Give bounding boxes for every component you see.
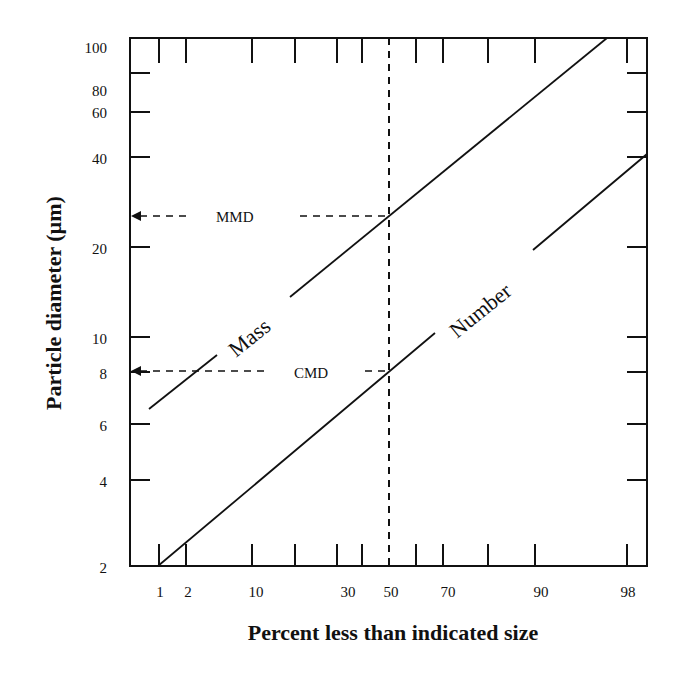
svg-text:30: 30 [341,584,356,600]
x-axis-title: Percent less than indicated size [248,620,539,645]
cmd-label: CMD [294,365,328,381]
svg-text:2: 2 [184,584,192,600]
cmd-leader [131,366,389,376]
mmd-label: MMD [216,209,254,225]
svg-text:90: 90 [534,584,549,600]
y-axis-title: Particle diameter (µm) [41,196,66,410]
svg-text:8: 8 [100,366,108,382]
svg-text:1: 1 [156,584,164,600]
x-ticks [159,38,627,566]
svg-text:40: 40 [92,151,107,167]
svg-text:10: 10 [92,331,107,347]
mmd-arrow-icon [131,211,141,221]
x-tick-labels: 1 2 10 30 50 70 90 98 [156,584,635,600]
svg-text:4: 4 [100,474,108,490]
svg-text:80: 80 [92,83,107,99]
particle-size-chart: MMD CMD Mass Number 100 80 60 40 20 10 8… [0,0,682,673]
svg-text:70: 70 [441,584,456,600]
y-tick-labels: 100 80 60 40 20 10 8 6 4 2 [85,40,108,576]
number-curve-label: Number [444,278,516,343]
svg-text:100: 100 [85,40,108,56]
svg-text:60: 60 [92,105,107,121]
svg-text:10: 10 [249,584,264,600]
cmd-arrow-icon [131,366,141,376]
svg-text:2: 2 [100,560,108,576]
mass-curve-label: Mass [223,313,275,362]
mmd-leader [131,211,389,221]
svg-text:98: 98 [621,584,636,600]
svg-text:50: 50 [384,584,399,600]
svg-text:20: 20 [92,241,107,257]
svg-text:6: 6 [100,418,108,434]
